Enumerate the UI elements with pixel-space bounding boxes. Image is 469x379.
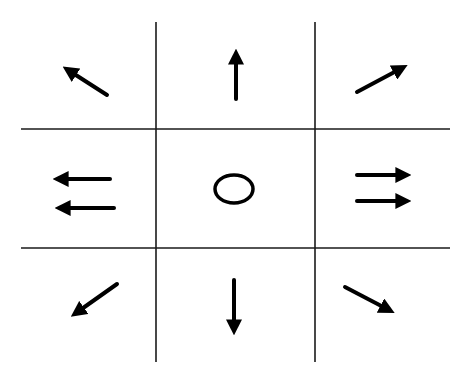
cell-center <box>215 175 253 203</box>
arrow-down-left-icon <box>76 284 117 313</box>
arrow-up-left-icon <box>68 70 107 95</box>
cell-middle-left <box>59 179 114 208</box>
cell-bottom-right <box>345 287 389 310</box>
circle-icon <box>215 175 253 203</box>
cell-bottom-left <box>76 284 117 313</box>
direction-grid-diagram <box>0 0 469 379</box>
cell-top-right <box>357 68 402 92</box>
arrow-up-right-icon <box>357 68 402 92</box>
cell-top-left <box>68 70 107 95</box>
arrow-down-right-icon <box>345 287 389 310</box>
cell-middle-right <box>357 175 405 201</box>
diagram-canvas <box>0 0 469 379</box>
